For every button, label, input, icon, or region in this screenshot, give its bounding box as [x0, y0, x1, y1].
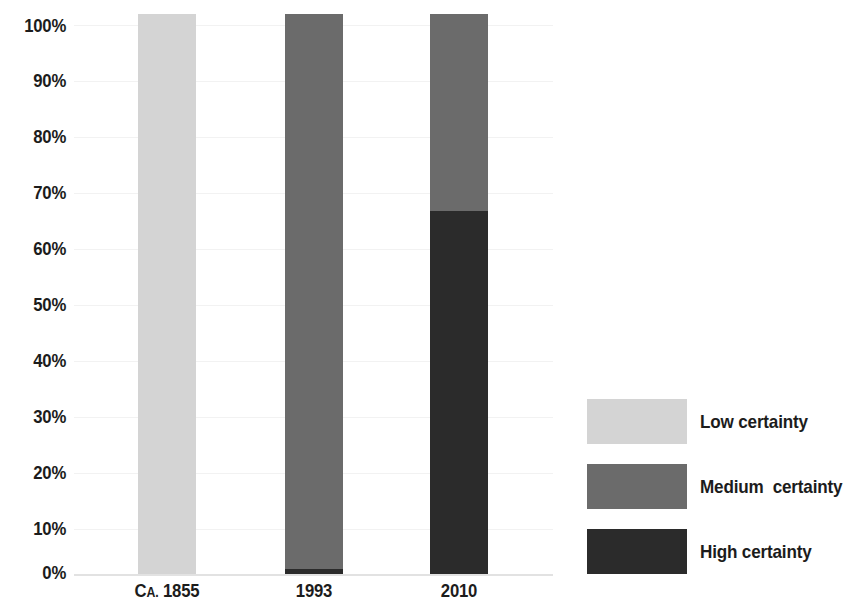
y-tick-label-100: 100%: [8, 16, 66, 35]
y-tick-label-70: 70%: [8, 183, 66, 202]
bar-segment-medium-certainty: [430, 14, 488, 211]
bar-segment-medium-certainty: [285, 14, 343, 569]
x-axis-line: [74, 574, 553, 576]
legend-swatch-medium-certainty: [587, 464, 687, 509]
y-tick-label-40: 40%: [8, 351, 66, 370]
plot-area: [74, 14, 553, 576]
legend-label-medium-certainty: Medium certainty: [700, 464, 842, 509]
y-tick-label-60: 60%: [8, 239, 66, 258]
y-tick-label-80: 80%: [8, 127, 66, 146]
y-tick-label-50: 50%: [8, 295, 66, 314]
x-tick-label-1993: 1993: [244, 581, 385, 600]
y-tick-label-90: 90%: [8, 71, 66, 90]
bar-segment-high-certainty: [430, 211, 488, 576]
bar-stack-1993: [285, 14, 343, 576]
x-tick-label-ca-1855-smallcaps: A.: [146, 584, 158, 600]
legend-label-low-certainty: Low certainty: [700, 399, 808, 444]
legend-swatch-high-certainty: [587, 529, 687, 574]
y-axis: 100% 90% 80% 70% 60% 50% 40% 30% 20% 10%…: [0, 0, 66, 611]
legend-swatch-low-certainty: [587, 399, 687, 444]
x-tick-label-ca-1855-lead: C: [135, 580, 147, 601]
bar-stack-ca-1855: [138, 14, 196, 576]
legend-item-high-certainty: High certainty: [587, 529, 854, 574]
legend-item-low-certainty: Low certainty: [587, 399, 854, 444]
y-tick-label-20: 20%: [8, 463, 66, 482]
y-tick-label-30: 30%: [8, 407, 66, 426]
stacked-bar-chart: 100% 90% 80% 70% 60% 50% 40% 30% 20% 10%…: [0, 0, 854, 611]
bar-segment-low-certainty: [138, 14, 196, 576]
x-tick-label-ca-1855: CA. 1855: [97, 581, 238, 600]
x-tick-label-ca-1855-rest: 1855: [158, 580, 199, 601]
legend-label-high-certainty: High certainty: [700, 529, 812, 574]
bar-stack-2010: [430, 14, 488, 576]
legend: Low certainty Medium certainty High cert…: [587, 399, 854, 574]
legend-item-medium-certainty: Medium certainty: [587, 464, 854, 509]
x-tick-label-2010: 2010: [389, 581, 530, 600]
y-tick-label-10: 10%: [8, 519, 66, 538]
y-tick-label-0: 0%: [8, 563, 66, 582]
